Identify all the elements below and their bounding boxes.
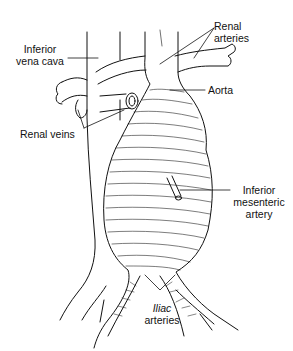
renal-vein-leader-1 [78, 110, 84, 128]
label-aorta: Aorta [208, 84, 233, 96]
label-line: artery [228, 208, 290, 220]
aneurysm-hatching [106, 89, 211, 270]
label-renal-arteries: Renal arteries [214, 20, 249, 44]
label-line: Iliac [140, 302, 184, 314]
label-line: arteries [214, 32, 249, 44]
leader-lines [68, 28, 230, 290]
renal-artery-leader-1 [160, 28, 214, 64]
label-line: mesenteric [228, 196, 290, 208]
label-line: arteries [140, 314, 184, 326]
renal-veins [56, 78, 138, 118]
label-line: vena cava [8, 55, 72, 67]
label-renal-veins: Renal veins [20, 128, 75, 140]
label-line: Renal [214, 20, 249, 32]
label-inferior-mesenteric-artery: Inferior mesenteric artery [228, 184, 290, 220]
renal-arteries [96, 44, 235, 84]
aneurysm-diagram: Inferior vena cava Renal arteries Aorta … [0, 0, 293, 351]
aorta [94, 30, 238, 348]
inferior-vena-cava [60, 32, 120, 320]
label-inferior-vena-cava: Inferior vena cava [8, 43, 72, 67]
label-iliac-arteries: Iliac arteries [140, 302, 184, 326]
renal-artery-leader-2 [194, 28, 214, 58]
renal-vein-leader-2 [84, 110, 124, 128]
label-line: Inferior [8, 43, 72, 55]
iliac-leader [145, 275, 175, 290]
label-line: Inferior [228, 184, 290, 196]
